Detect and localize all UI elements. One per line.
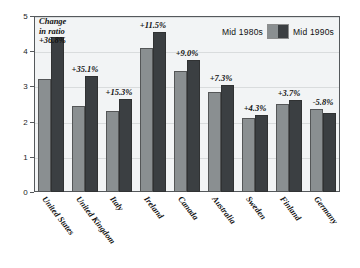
bar-group — [272, 16, 306, 192]
bar-1980s — [208, 92, 221, 192]
bar-1990s — [119, 99, 132, 192]
x-tick-label: Finland — [278, 194, 303, 223]
x-axis-labels: United StatesUnited KingdomItalyIrelandC… — [34, 194, 340, 268]
bar-1980s — [174, 71, 187, 192]
x-tick-label: Ireland — [142, 194, 166, 221]
bar-group — [102, 16, 136, 192]
y-tick-label: 1 — [23, 152, 28, 161]
bar-1990s — [51, 37, 64, 192]
legend-label-1980s: Mid 1980s — [222, 27, 263, 37]
bar-1990s — [289, 100, 302, 192]
bar-1980s — [276, 104, 289, 192]
y-tick-mark — [30, 192, 34, 193]
bar-annotation: +36.8% — [39, 36, 66, 46]
legend-swatches — [267, 24, 289, 39]
x-tick-label: Sweden — [244, 194, 268, 221]
bar-group — [204, 16, 238, 192]
x-tick-label: Italy — [108, 194, 126, 213]
bar-1990s — [255, 115, 268, 192]
bar-group — [170, 16, 204, 192]
chart-root: 012345 +36.8%+35.1%+15.3%+11.5%+9.0%+7.3… — [0, 0, 360, 268]
legend: Mid 1980s Mid 1990s — [222, 24, 334, 39]
bar-1990s — [187, 60, 200, 192]
y-axis: 012345 — [0, 16, 34, 192]
x-tick-label: Canada — [176, 194, 201, 222]
x-tick-label: Australia — [210, 194, 238, 226]
bar-1990s — [221, 85, 234, 192]
x-tick-label: United States — [40, 194, 77, 237]
bar-annotation: +7.3% — [210, 73, 233, 83]
y-tick-label: 2 — [23, 117, 28, 126]
bar-annotation: +4.3% — [244, 103, 267, 113]
bar-1980s — [140, 48, 153, 192]
bar-group — [68, 16, 102, 192]
bar-1990s — [323, 113, 336, 192]
bar-annotation: +3.7% — [278, 88, 301, 98]
bar-1990s — [153, 32, 166, 192]
bar-1980s — [38, 79, 51, 192]
x-tick-label: Germany — [312, 194, 340, 226]
y-tick-label: 4 — [23, 47, 28, 56]
legend-swatch-1980s — [268, 25, 278, 38]
bar-group — [136, 16, 170, 192]
y-tick-label: 0 — [23, 188, 28, 197]
y-tick-label: 5 — [23, 12, 28, 21]
bars-layer: +36.8%+35.1%+15.3%+11.5%+9.0%+7.3%+4.3%+… — [34, 16, 340, 192]
bar-1980s — [310, 109, 323, 192]
change-in-ratio-caption: Changein ratio+36.8% — [39, 17, 66, 46]
bar-1980s — [72, 106, 85, 192]
bar-annotation: +15.3% — [106, 87, 133, 97]
bar-annotation: +11.5% — [140, 20, 166, 30]
bar-annotation: -5.8% — [313, 97, 334, 107]
legend-swatch-1990s — [278, 25, 288, 38]
legend-label-1990s: Mid 1990s — [293, 27, 334, 37]
bar-annotation: +35.1% — [72, 64, 99, 74]
bar-1980s — [106, 111, 119, 192]
y-tick-label: 3 — [23, 82, 28, 91]
bar-annotation: +9.0% — [176, 48, 199, 58]
bar-1980s — [242, 118, 255, 192]
bar-1990s — [85, 76, 98, 192]
